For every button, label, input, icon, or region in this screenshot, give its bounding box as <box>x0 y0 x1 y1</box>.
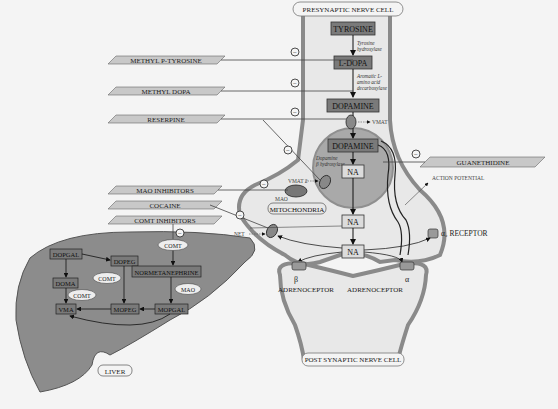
reserpine-label: RESERPINE <box>147 116 184 124</box>
mao-liver-label: MAO <box>181 287 196 293</box>
dopeg-label: DOPEG <box>114 258 136 265</box>
mao-inhibitors-label: MAO INHIBITORS <box>136 187 194 195</box>
comt-inhibitors-label: COMT INHIBITORS <box>134 217 195 225</box>
alpha2-receptor-label: α₂ RECEPTOR <box>441 229 488 238</box>
comt-mid-label: COMT <box>98 276 116 282</box>
normetanephrine-label: NORMETANEPHRINE <box>135 269 199 276</box>
presynaptic-label: PRESYNAPTIC NERVE CELL <box>303 6 394 14</box>
inhibit-icon: − <box>286 147 290 155</box>
inhibit-icon: − <box>178 230 182 238</box>
tyrosine-label: TYROSINE <box>333 25 373 34</box>
inhibit-icon: − <box>293 80 297 88</box>
enzyme-dbh-2: β hydroxylase <box>315 161 345 167</box>
na-terminal-label: NA <box>347 218 359 227</box>
enzyme-aadc-3: decarboxylase <box>357 85 388 91</box>
methyl-p-tyrosine-label: METHYL P-TYROSINE <box>130 57 202 65</box>
postsynaptic-cell: β ADRENOCEPTOR α ADRENOCEPTOR POST SYNAP… <box>278 262 427 366</box>
dopgal-label: DOPGAL <box>53 251 79 258</box>
mopeg-label: MOPEG <box>114 306 137 313</box>
na-cleft-label: NA <box>347 248 359 257</box>
diagram: PRESYNAPTIC NERVE CELL TYROSINE Tyrosine… <box>0 0 558 409</box>
dopamine-label: DOPAMINE <box>332 102 374 111</box>
inhibit-icon: − <box>293 49 297 57</box>
methyl-dopa-label: METHYL DOPA <box>141 88 190 96</box>
guanethidine-label: GUANETHIDINE <box>457 159 510 167</box>
doma-label: DOMA <box>56 280 76 287</box>
vmat-transporter <box>346 115 356 129</box>
mao-mito-label: MAO <box>275 196 288 202</box>
alpha-adrenoceptor-label: ADRENOCEPTOR <box>347 286 403 294</box>
alpha-receptor-shape <box>400 262 414 270</box>
inhibit-icon: − <box>238 212 242 220</box>
liver: LIVER DOPGAL DOPEG DOMA VMA MOPEG MOPGAL… <box>16 232 255 392</box>
vmat-label: VMAT <box>372 119 388 125</box>
action-potential-label: ACTION POTENTIAL <box>432 175 485 181</box>
inhibit-icon: − <box>414 151 418 159</box>
enzyme-tyrosine-hydroxylase-2: hydroxylase <box>357 46 383 52</box>
postsynaptic-label: POST SYNAPTIC NERVE CELL <box>305 356 402 364</box>
liver-label: LIVER <box>105 368 126 376</box>
comt-low-label: COMT <box>73 293 91 299</box>
vma-label: VMA <box>58 306 73 313</box>
beta-receptor-shape <box>292 262 306 270</box>
dopamine-vesicle-label: DOPAMINE <box>332 142 374 151</box>
mitochondria-shape <box>285 185 307 197</box>
alpha2-receptor-shape <box>428 229 438 238</box>
beta-adrenoceptor-label: ADRENOCEPTOR <box>278 286 334 294</box>
cocaine-label: COCAINE <box>149 202 180 210</box>
beta-symbol: β <box>294 275 298 284</box>
mitochondria-label: MITOCHONDRIA <box>270 206 325 214</box>
na-vesicle-label: NA <box>347 168 359 177</box>
mopgal-label: MOPGAL <box>158 306 185 313</box>
vmat2-label: VMAT 2 <box>288 178 308 184</box>
inhibit-icon: − <box>293 109 297 117</box>
inhibit-icon: − <box>262 181 266 189</box>
comt-top-label: COMT <box>164 243 182 249</box>
